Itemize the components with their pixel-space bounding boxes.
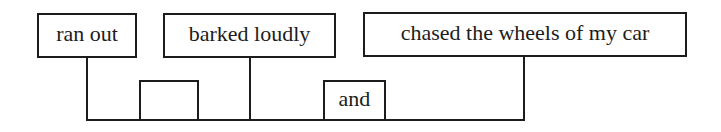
predicate-box-barked-loudly: barked loudly — [163, 13, 336, 58]
connector-box-empty — [139, 80, 199, 121]
stem-line-barked-loudly — [249, 57, 251, 121]
predicate-label: ran out — [56, 23, 118, 45]
sentence-diagram: ran out barked loudly chased the wheels … — [0, 0, 721, 132]
baseline — [86, 119, 525, 121]
predicate-box-ran-out: ran out — [37, 13, 137, 58]
stem-line-ran-out — [86, 57, 88, 121]
predicate-label: chased the wheels of my car — [401, 22, 650, 44]
predicate-label: barked loudly — [189, 23, 311, 45]
connector-box-and: and — [323, 80, 386, 121]
connector-label: and — [339, 88, 371, 110]
predicate-box-chased: chased the wheels of my car — [363, 12, 687, 57]
stem-line-chased — [523, 56, 525, 121]
